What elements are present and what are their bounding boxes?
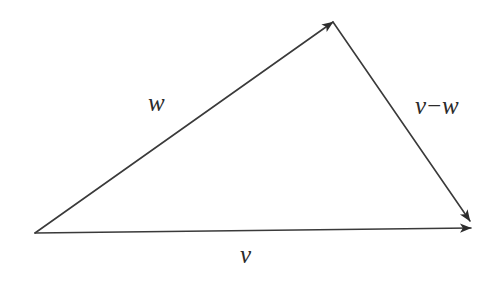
vector-w-line (35, 22, 333, 233)
vector-label-v-minus-w: v−w (415, 93, 458, 118)
vector-label-w: w (148, 90, 165, 115)
vector-diagram: w v−w v (0, 0, 498, 283)
vector-v-minus-w-line (333, 22, 470, 221)
vector-label-v: v (240, 242, 251, 267)
vector-v-line (35, 228, 471, 233)
